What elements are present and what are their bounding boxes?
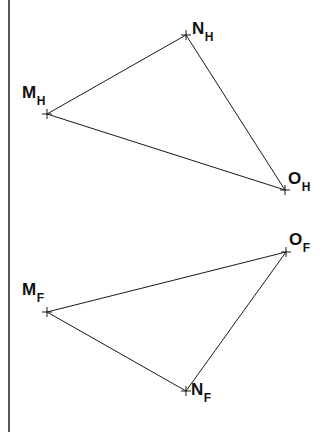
label-subscript-letter: F: [37, 291, 44, 305]
label-subscript-letter: F: [204, 391, 211, 405]
diagram-canvas: MHNHOHMFNFOF: [0, 0, 334, 432]
vertex-label-N_F: NF: [191, 381, 211, 401]
label-subscript-letter: H: [205, 30, 214, 44]
label-base-letter: M: [22, 83, 36, 102]
canvas-background: [0, 0, 334, 432]
label-subscript-letter: H: [37, 94, 46, 108]
vertex-label-O_H: OH: [288, 170, 310, 190]
vertex-label-M_F: MF: [22, 281, 44, 301]
label-subscript-letter: H: [302, 180, 311, 194]
vertex-label-O_F: OF: [289, 231, 310, 251]
label-base-letter: M: [22, 280, 36, 299]
label-base-letter: N: [192, 19, 204, 38]
vertex-label-M_H: MH: [22, 84, 45, 104]
label-base-letter: O: [288, 169, 301, 188]
label-base-letter: N: [191, 380, 203, 399]
label-subscript-letter: F: [303, 241, 310, 255]
diagram-vector-layer: [0, 0, 334, 432]
label-base-letter: O: [289, 230, 302, 249]
vertex-label-N_H: NH: [192, 20, 213, 40]
